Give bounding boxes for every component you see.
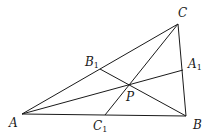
label-b: B: [192, 118, 202, 132]
label-a1: A1: [187, 57, 202, 72]
side-ab: [22, 114, 186, 116]
label-c1: C1: [93, 119, 107, 134]
label-p: P: [125, 90, 135, 104]
label-c: C: [178, 6, 187, 20]
triangle-cevian-diagram: A B C B1 A1 C1 P: [0, 0, 212, 136]
cevian-a-a1: [22, 70, 183, 114]
cevian-c-c1: [105, 24, 178, 115]
label-b1: B1: [84, 55, 99, 70]
label-a: A: [8, 116, 18, 130]
cevian-b-b1: [100, 69, 186, 116]
